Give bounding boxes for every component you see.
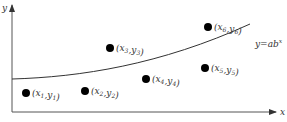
point-marker	[201, 64, 209, 72]
y-axis-label: y	[1, 3, 8, 13]
point-label: (x1,y1)	[32, 88, 60, 102]
point-label: (x2,y2)	[91, 86, 119, 100]
scatter-curve-diagram: y x y=abx (x1,y1)(x2,y2)(x3,y3)(x4,y4)(x…	[0, 0, 287, 122]
data-point-p6: (x6,y6)	[204, 22, 242, 36]
point-label: (x6,y6)	[214, 22, 242, 36]
point-label: (x5,y5)	[211, 63, 239, 77]
point-marker	[22, 89, 30, 97]
point-marker	[142, 75, 150, 83]
point-label: (x4,y4)	[152, 74, 180, 88]
point-marker	[106, 44, 114, 52]
data-point-p4: (x4,y4)	[142, 74, 180, 88]
point-label: (x3,y3)	[116, 43, 144, 57]
data-point-p2: (x2,y2)	[81, 86, 119, 100]
data-points: (x1,y1)(x2,y2)(x3,y3)(x4,y4)(x5,y5)(x6,y…	[22, 22, 242, 102]
point-marker	[204, 23, 212, 31]
data-point-p3: (x3,y3)	[106, 43, 144, 57]
data-point-p1: (x1,y1)	[22, 88, 60, 102]
equation-label: y=abx	[254, 37, 283, 49]
data-point-p5: (x5,y5)	[201, 63, 239, 77]
x-axis-label: x	[280, 107, 285, 117]
point-marker	[81, 87, 89, 95]
